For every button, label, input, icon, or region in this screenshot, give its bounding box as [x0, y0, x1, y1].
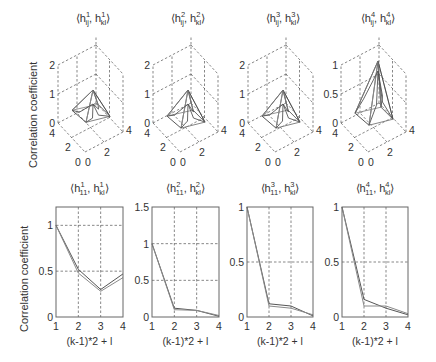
y-tick-label: 1: [238, 201, 244, 213]
x-tick-label: 4: [310, 320, 316, 332]
y-tick-label: 2: [255, 141, 261, 153]
line-plot-2: 00.511.51234(k-1)*2 + l⟨h211, h2kl⟩: [134, 180, 222, 347]
x-tick-label: 2: [75, 320, 81, 332]
x-tick-label: 2: [199, 146, 205, 158]
x-tick-label: 1: [53, 320, 59, 332]
line-plot-title: ⟨h211, h2kl⟩: [166, 180, 205, 197]
surface-plot-title: ⟨h3ij, h3kl⟩: [266, 10, 300, 27]
y-tick-label: 0.5: [134, 274, 149, 286]
line-plot-title: ⟨h111, h1kl⟩: [70, 180, 108, 197]
axes-frame: [152, 207, 219, 317]
x-tick-label: 1: [339, 320, 345, 332]
z-tick-label: 2: [144, 59, 150, 71]
y-tick-label: 0: [358, 156, 364, 168]
data-series-series-a: [247, 207, 313, 316]
data-series-series-b: [247, 207, 313, 315]
z-tick-label: 1: [49, 88, 55, 100]
top-y-axis-label: Correlation coefficient: [27, 62, 39, 168]
y-tick-label: 4: [144, 127, 150, 139]
data-series-series-b: [152, 244, 219, 316]
x-tick-label: 2: [387, 146, 393, 158]
x-tick-label: 1: [244, 320, 250, 332]
x-axis-label: (k-1)*2 + l: [352, 335, 398, 347]
z-tick-label: 1: [144, 88, 150, 100]
x-tick-label: 0: [368, 156, 374, 168]
y-tick-label: 0: [265, 156, 271, 168]
data-series-series-a: [342, 207, 408, 315]
surface-plot-title: ⟨h1ij, h1kl⟩: [76, 10, 110, 27]
x-tick-label: 4: [409, 124, 415, 136]
y-tick-label: 4: [332, 127, 338, 139]
y-tick-label: 1: [143, 238, 149, 250]
x-tick-label: 4: [316, 124, 322, 136]
y-tick-label: 1: [333, 201, 339, 213]
x-tick-label: 3: [194, 320, 200, 332]
y-tick-label: 0.5: [38, 265, 53, 277]
line-plot-title: ⟨h411, h4kl⟩: [356, 180, 395, 197]
x-tick-label: 4: [405, 320, 411, 332]
x-axis-label: (k-1)*2 + l: [257, 335, 303, 347]
z-tick-label: 0.5: [323, 88, 338, 100]
line-plot-4: 00.511234(k-1)*2 + l⟨h411, h4kl⟩: [324, 180, 411, 347]
x-tick-label: 2: [361, 320, 367, 332]
y-tick-label: 1: [47, 219, 53, 231]
surface-plot-3: 012420024⟨h3ij, h3kl⟩: [239, 10, 322, 168]
x-tick-label: 2: [171, 320, 177, 332]
z-tick-label: 1: [332, 59, 338, 71]
line-plot-1: 00.511234(k-1)*2 + l⟨h111, h1kl⟩: [38, 180, 126, 347]
x-tick-label: 2: [294, 146, 300, 158]
z-tick-label: 1: [239, 88, 245, 100]
y-tick-label: 4: [49, 127, 55, 139]
x-tick-label: 4: [126, 124, 132, 136]
y-tick-label: 0.5: [324, 256, 339, 268]
y-tick-label: 2: [65, 141, 71, 153]
z-tick-label: 2: [49, 59, 55, 71]
axes-frame: [56, 207, 123, 317]
surface-plot-1: 012420024⟨h1ij, h1kl⟩: [49, 10, 132, 168]
x-tick-label: 0: [180, 156, 186, 168]
y-tick-label: 0: [75, 156, 81, 168]
z-tick-label: 2: [239, 59, 245, 71]
x-tick-label: 1: [149, 320, 155, 332]
figure: Correlation coefficient Correlation coef…: [0, 0, 436, 362]
x-tick-label: 4: [216, 320, 222, 332]
x-tick-label: 4: [221, 124, 227, 136]
x-tick-label: 0: [275, 156, 281, 168]
surface-plot-2: 012420024⟨h2ij, h2kl⟩: [144, 10, 227, 168]
line-plot-title: ⟨h311, h3kl⟩: [261, 180, 300, 197]
y-tick-label: 4: [239, 127, 245, 139]
surface-plot-title: ⟨h4ij, h4kl⟩: [361, 10, 395, 27]
data-series-series-a: [56, 225, 123, 289]
surface-plot-4: 00.51420024⟨h4ij, h4kl⟩: [323, 10, 415, 168]
surface-plot-title: ⟨h2ij, h2kl⟩: [171, 10, 205, 27]
x-tick-label: 2: [266, 320, 272, 332]
line-plot-3: 00.511234(k-1)*2 + l⟨h311, h3kl⟩: [229, 180, 316, 347]
bottom-y-axis-label: Correlation coefficient: [18, 226, 30, 332]
y-tick-label: 0: [170, 156, 176, 168]
x-tick-label: 3: [98, 320, 104, 332]
x-axis-label: (k-1)*2 + l: [67, 335, 113, 347]
x-tick-label: 0: [85, 156, 91, 168]
y-tick-label: 1.5: [134, 201, 149, 213]
x-axis-label: (k-1)*2 + l: [163, 335, 209, 347]
x-tick-label: 2: [104, 146, 110, 158]
x-tick-label: 3: [383, 320, 389, 332]
y-tick-label: 2: [160, 141, 166, 153]
x-tick-label: 3: [288, 320, 294, 332]
data-series-series-b: [342, 207, 408, 314]
x-tick-label: 4: [120, 320, 126, 332]
y-tick-label: 2: [348, 141, 354, 153]
y-tick-label: 0.5: [229, 256, 244, 268]
